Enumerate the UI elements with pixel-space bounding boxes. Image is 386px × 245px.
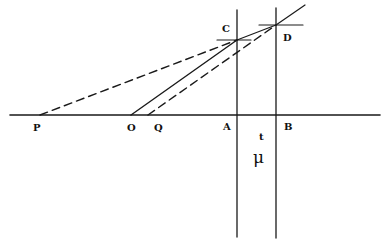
dashed-line-p-c bbox=[40, 40, 237, 115]
solid-extension-d bbox=[276, 5, 305, 25]
solid-ray-o-c-d bbox=[131, 40, 237, 115]
label-o: O bbox=[127, 122, 136, 133]
dashed-line-q-d bbox=[148, 25, 276, 115]
label-q: Q bbox=[154, 122, 163, 133]
label-t: t bbox=[259, 131, 264, 142]
label-b: B bbox=[284, 121, 292, 132]
geometric-diagram: P O Q A B C D t μ bbox=[0, 0, 386, 245]
solid-segment-c-d bbox=[237, 25, 276, 40]
label-d: D bbox=[283, 32, 292, 43]
label-mu: μ bbox=[253, 147, 264, 167]
label-p: P bbox=[33, 122, 41, 133]
label-c: C bbox=[222, 23, 230, 34]
label-a: A bbox=[222, 121, 231, 132]
